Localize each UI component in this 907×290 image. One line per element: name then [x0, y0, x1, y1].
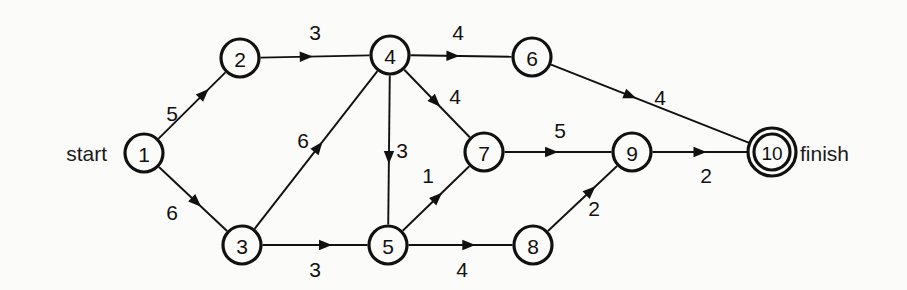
node-label-4: 4: [384, 45, 396, 68]
edge-8-to-9: 2: [548, 166, 617, 231]
edge-9-to-10: 2: [653, 147, 748, 187]
edge-4-to-5: 3: [384, 76, 408, 225]
edge-1-to-2: 5: [159, 72, 226, 138]
edge-4-to-6: 4: [411, 21, 512, 61]
finish-label: finish: [800, 142, 849, 165]
node-1[interactable]: 1: [125, 134, 163, 172]
node-label-1: 1: [138, 143, 150, 166]
node-label-8: 8: [527, 235, 539, 258]
node-label-3: 3: [236, 235, 248, 258]
edge-weight-7-9: 5: [554, 119, 566, 142]
edge-weight-3-5: 3: [309, 258, 321, 281]
edge-weight-5-7: 1: [422, 164, 434, 187]
edge-arrowhead: [310, 142, 322, 155]
edge-4-to-7: 4: [404, 70, 469, 138]
edge-6-to-10: 4: [551, 65, 749, 143]
node-label-6: 6: [526, 47, 538, 70]
edge-weight-4-7: 4: [449, 85, 461, 108]
edge-weight-9-10: 2: [700, 164, 712, 187]
node-10[interactable]: 10: [748, 128, 796, 176]
edge-3-to-5: 3: [263, 240, 368, 281]
edge-arrowhead: [300, 52, 313, 62]
node-label-5: 5: [382, 235, 394, 258]
node-label-2: 2: [234, 48, 246, 71]
edge-weight-5-8: 4: [456, 258, 468, 281]
edge-arrowhead: [462, 240, 475, 250]
edge-5-to-7: 1: [403, 164, 470, 231]
node-5[interactable]: 5: [369, 226, 407, 264]
node-9[interactable]: 9: [613, 133, 651, 171]
network-diagram-page: 56363344144522 12345678910 start finish: [0, 0, 907, 290]
start-label: start: [66, 142, 107, 165]
edge-arrowhead: [694, 147, 707, 157]
terminals-layer: start finish: [66, 142, 849, 165]
edge-arrowhead: [446, 51, 459, 61]
network-graph: 56363344144522 12345678910 start finish: [0, 0, 907, 290]
edge-weight-2-4: 3: [309, 21, 321, 44]
edge-arrowhead: [622, 89, 636, 99]
node-7[interactable]: 7: [465, 133, 503, 171]
node-4[interactable]: 4: [371, 36, 409, 74]
node-label-9: 9: [626, 142, 638, 165]
edge-5-to-8: 4: [409, 240, 513, 281]
node-label-10: 10: [761, 143, 782, 164]
edge-2-to-4: 3: [261, 21, 370, 63]
node-8[interactable]: 8: [514, 226, 552, 264]
edge-arrowhead: [545, 147, 558, 157]
node-2[interactable]: 2: [221, 39, 259, 77]
node-6[interactable]: 6: [513, 38, 551, 76]
node-3[interactable]: 3: [223, 226, 261, 264]
edge-arrowhead: [384, 151, 394, 164]
edge-arrowhead: [319, 240, 332, 250]
node-label-7: 7: [478, 142, 490, 165]
edge-weight-4-6: 4: [452, 21, 464, 44]
edge-3-to-4: 6: [255, 71, 378, 229]
edge-weight-4-5: 3: [396, 139, 408, 162]
edge-weight-3-4: 6: [297, 129, 309, 152]
edge-weight-1-2: 5: [166, 102, 178, 125]
edge-weight-6-10: 4: [654, 86, 666, 109]
edge-weight-8-9: 2: [588, 197, 600, 220]
edge-weight-1-3: 6: [166, 201, 178, 224]
edge-7-to-9: 5: [505, 119, 612, 158]
edge-1-to-3: 6: [159, 167, 227, 231]
